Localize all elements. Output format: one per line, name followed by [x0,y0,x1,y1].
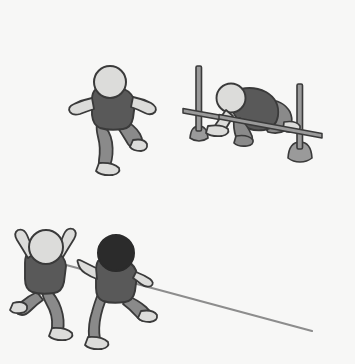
track-and-field-illustration: Children doing track and field activitie… [0,0,355,364]
illustration-canvas: Children doing track and field activitie… [0,0,355,364]
dark-runner-head [98,235,134,271]
high-jump-post-right [297,84,303,149]
celebrating-runner-head [29,230,63,264]
top-runner-rear-shoe [130,140,147,152]
dark-runner-front-shoe [85,337,108,349]
celebrating-runner-front-shoe [49,328,72,340]
top-runner-front-shoe [96,163,119,175]
top-runner-head [94,66,126,98]
jumper-hand [206,125,228,136]
dark-runner-rear-shoe [138,311,157,323]
jumper-front-foot [234,136,253,147]
celebrating-runner-rear-shoe [10,302,27,313]
high-jump-post-left [196,66,202,131]
jumper-head [217,84,246,113]
